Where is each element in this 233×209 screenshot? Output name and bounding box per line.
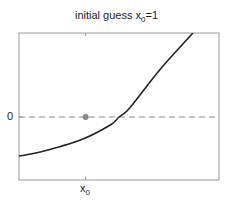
x-tick-subscript: 0	[86, 188, 90, 197]
plot-frame	[19, 33, 219, 180]
initial-guess-point	[83, 114, 89, 120]
x-tick-label-x0: x0	[80, 182, 90, 197]
chart-canvas	[0, 0, 233, 209]
title-tail: =1	[145, 9, 158, 21]
function-curve	[19, 33, 193, 156]
chart-title: initial guess x0=1	[0, 9, 233, 24]
y-tick-text: 0	[7, 110, 13, 122]
y-tick-label-zero: 0	[7, 110, 13, 122]
title-main: initial guess x	[75, 9, 141, 21]
